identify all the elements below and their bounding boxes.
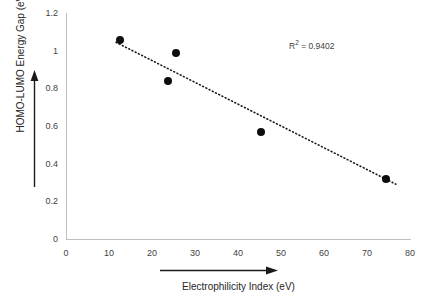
x-axis-title: Electrophilicity Index (eV): [66, 281, 411, 292]
up-arrow-icon: [30, 70, 39, 187]
x-tick-label: 70: [355, 249, 379, 258]
x-tick-label: 80: [398, 249, 422, 258]
trendline: [66, 13, 411, 240]
y-tick-label: 1.2: [30, 9, 58, 18]
chart-figure: 1.2 1 0.8 0.6 0.4 0.2 0 0 10 20 30 40 50…: [0, 0, 427, 300]
y-tick-label: 1: [30, 47, 58, 56]
data-point: [382, 175, 390, 183]
x-tick-label: 10: [97, 249, 121, 258]
y-tick-label: 0.2: [30, 197, 58, 206]
y-axis-title: HOMO-LUMO Energy Gap (eV): [14, 0, 28, 152]
x-tick-label: 40: [226, 249, 250, 258]
plot-area: [66, 13, 411, 240]
data-point: [257, 128, 265, 136]
right-arrow-icon: [160, 266, 278, 275]
r-squared-value: = 0.9402: [299, 41, 335, 51]
y-tick-label: 0: [30, 235, 58, 244]
y-axis-title-wrapper: HOMO-LUMO Energy Gap (eV): [14, 0, 28, 152]
x-tick-label: 20: [140, 249, 164, 258]
r-squared-annotation: R2 = 0.9402: [289, 39, 334, 51]
x-tick-label: 60: [312, 249, 336, 258]
x-tick-label: 50: [269, 249, 293, 258]
data-point: [116, 36, 124, 44]
x-tick-label: 30: [183, 249, 207, 258]
x-tick-label: 0: [54, 249, 78, 258]
